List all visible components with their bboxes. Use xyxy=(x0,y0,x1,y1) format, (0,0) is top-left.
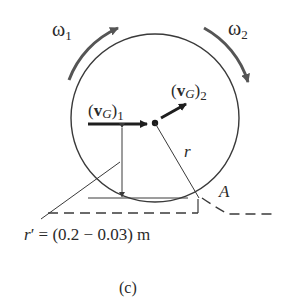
vG2-label: (vG)2 xyxy=(171,81,207,103)
omega2-label: ω2 xyxy=(228,17,248,42)
point-A-label: A xyxy=(218,182,230,201)
vG1-label: (vG)1 xyxy=(88,101,124,123)
r-prime-label: r′ = (0.2 − 0.03) m xyxy=(24,225,150,244)
vG2-arrow xyxy=(161,104,186,118)
diagram-figure: ω1 ω2 (vG)1 (vG)2 r A r′ = (0.2 − 0.03) … xyxy=(0,0,292,308)
omega1-label: ω1 xyxy=(52,18,72,43)
ground-dashed-line-right xyxy=(202,198,272,214)
r-prime-leader-line xyxy=(41,162,120,219)
omega1-rotation-arrow xyxy=(69,28,118,80)
radius-line xyxy=(155,123,199,198)
figure-caption: (c) xyxy=(119,279,137,297)
wheel-diagram: ω1 ω2 (vG)1 (vG)2 r A r′ = (0.2 − 0.03) … xyxy=(0,0,292,308)
radius-label: r xyxy=(184,142,191,161)
